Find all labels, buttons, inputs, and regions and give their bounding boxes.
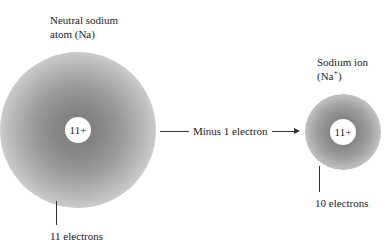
ion-title-line2: (Na+) xyxy=(317,69,368,83)
ion-title: Sodium ion (Na+) xyxy=(317,55,368,83)
ion-nucleus-charge: 11+ xyxy=(335,126,352,138)
arrow-label: Minus 1 electron xyxy=(193,124,268,138)
atom-title-line2: atom (Na) xyxy=(50,27,118,41)
atom-nucleus-charge: 11+ xyxy=(70,124,87,136)
atom-title-line1: Neutral sodium xyxy=(50,13,118,27)
ion-title-line1: Sodium ion xyxy=(317,55,368,69)
atom-electron-label: 11 electrons xyxy=(50,229,103,243)
transition-arrow: Minus 1 electron xyxy=(160,124,300,138)
ion-nucleus: 11+ xyxy=(330,119,356,145)
atom-title: Neutral sodium atom (Na) xyxy=(50,13,118,41)
arrow-head-line xyxy=(272,131,294,132)
ion-electron-label: 10 electrons xyxy=(315,196,368,210)
arrow-head-icon xyxy=(294,128,300,134)
arrow-tail-line xyxy=(160,131,189,132)
atom-nucleus: 11+ xyxy=(65,117,91,143)
atom-electron-pointer xyxy=(56,201,57,225)
ion-electron-pointer xyxy=(319,166,320,192)
